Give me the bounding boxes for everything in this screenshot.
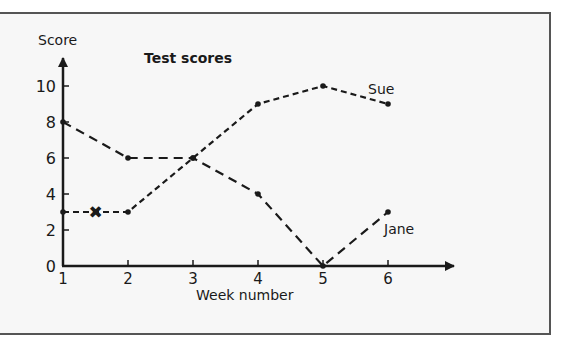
x-tick-label: 2 [123, 270, 133, 288]
y-tick-label: 2 [46, 221, 56, 240]
x-axis-label: Week number [196, 287, 294, 303]
data-point [320, 263, 326, 269]
series-line-sue [63, 86, 388, 212]
data-point [125, 209, 131, 215]
x-tick-label: 1 [58, 270, 68, 288]
data-point [385, 209, 391, 215]
data-point [320, 83, 326, 89]
data-point [255, 101, 261, 107]
y-tick-label: 6 [46, 149, 56, 168]
y-tick-label: 0 [46, 257, 56, 276]
data-point [385, 101, 391, 107]
series-lines [60, 83, 391, 269]
data-point [190, 155, 196, 161]
x-tick-label: 6 [383, 270, 393, 288]
y-tick-label: 10 [36, 77, 56, 96]
data-point [125, 155, 131, 161]
series-label-jane: Jane [383, 221, 414, 237]
data-point [60, 119, 66, 125]
chart-title: Test scores [144, 50, 232, 66]
data-point [255, 191, 261, 197]
data-point [60, 209, 66, 215]
x-tick-label: 3 [188, 270, 198, 288]
line-chart: 0246810 123456 Score Test scores Week nu… [0, 0, 578, 349]
x-ticks: 123456 [58, 260, 393, 288]
series-label-sue: Sue [368, 81, 394, 97]
x-tick-label: 4 [253, 270, 263, 288]
series-line-jane [63, 122, 388, 266]
x-tick-label: 5 [318, 270, 328, 288]
y-tick-label: 8 [46, 113, 56, 132]
cross-marker-icon: ✖ [88, 202, 102, 222]
y-axis-label: Score [38, 32, 77, 48]
y-tick-label: 4 [46, 185, 56, 204]
